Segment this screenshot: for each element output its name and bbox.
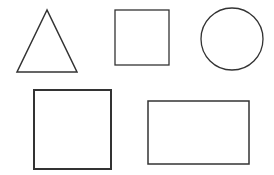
shapes-canvas (0, 0, 274, 175)
large-square-shape (34, 90, 111, 169)
small-square-shape (115, 10, 169, 65)
rectangle-shape (148, 101, 249, 164)
triangle-shape (17, 10, 77, 72)
circle-shape (201, 8, 263, 70)
